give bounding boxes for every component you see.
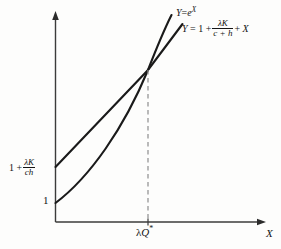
x-axis-name: X (266, 228, 273, 239)
x-tick-star: * (149, 224, 153, 233)
line-label-eq: = (190, 23, 196, 34)
line-label-plus-2: + (234, 23, 240, 34)
y-axis (52, 11, 59, 222)
y-upper-lead: 1 + (9, 162, 22, 173)
curve-label-exponential: Y=eX (176, 7, 196, 18)
y-upper-fraction: λKch (23, 158, 35, 178)
y-axis-label-lower: 1 (43, 195, 49, 206)
x-axis-tick-label: λQ* (136, 225, 153, 238)
curve-exponential (56, 15, 172, 203)
x-axis (56, 219, 267, 226)
y-axis-label-upper: 1 +λKch (9, 158, 36, 178)
curve-straight-line (56, 24, 183, 167)
figure-container: Y=eX Y = 1 +λKc + h+ X 1 +λKch 1 λQ* X (0, 0, 281, 249)
line-label-fraction: λKc + h (212, 19, 233, 39)
line-label-frac-denominator: c + h (212, 29, 233, 38)
y-upper-frac-denominator: ch (23, 168, 35, 177)
line-label-plus-1: + (206, 23, 212, 34)
line-label-var: X (243, 23, 249, 34)
line-label-const: 1 (198, 23, 203, 34)
curve-label-line: Y = 1 +λKc + h+ X (182, 19, 249, 39)
exp-label-exponent: X (192, 6, 196, 14)
line-label-lhs: Y (182, 23, 188, 34)
